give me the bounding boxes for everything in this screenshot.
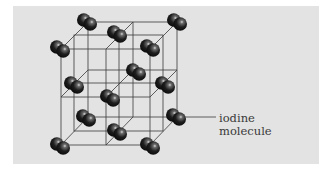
iodine-molecule-label: iodine molecule bbox=[219, 112, 272, 138]
molecule-icon bbox=[76, 109, 96, 127]
molecule-icon bbox=[140, 137, 160, 155]
molecule-icon bbox=[100, 89, 120, 107]
molecule-icon bbox=[126, 63, 146, 81]
molecule-icon bbox=[155, 76, 175, 94]
molecule-icon bbox=[166, 108, 186, 126]
molecule-icon bbox=[50, 137, 70, 155]
lattice-grid-lines bbox=[61, 22, 216, 145]
label-line-2: molecule bbox=[219, 125, 272, 138]
molecule-icon bbox=[107, 25, 127, 43]
iodine-lattice-diagram bbox=[0, 0, 326, 174]
molecule-icon bbox=[77, 13, 97, 31]
molecule-icon bbox=[167, 13, 187, 31]
